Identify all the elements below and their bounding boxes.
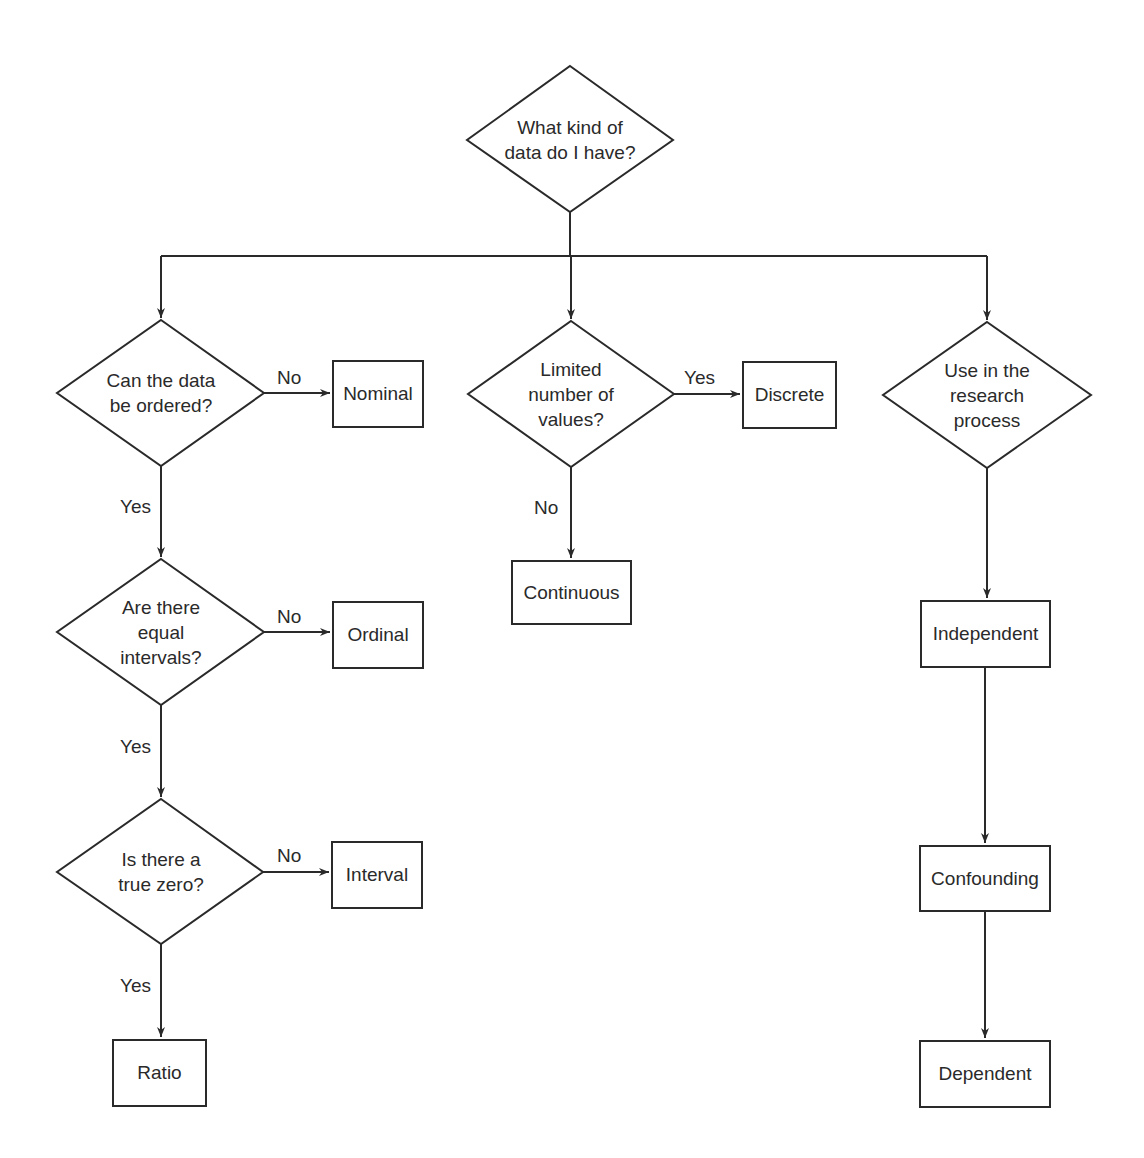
ordered-question: Can the data be ordered? bbox=[71, 353, 251, 433]
flowchart-canvas: What kind of data do I have? Can the dat… bbox=[0, 0, 1144, 1158]
independent-box: Independent bbox=[920, 600, 1051, 668]
limited-yes-label: Yes bbox=[684, 367, 715, 389]
limited-no-label: No bbox=[534, 497, 558, 519]
ordered-no-label: No bbox=[277, 367, 301, 389]
ordinal-box: Ordinal bbox=[332, 601, 424, 669]
dependent-box: Dependent bbox=[919, 1040, 1051, 1108]
equal-no-label: No bbox=[277, 606, 301, 628]
equal-intervals-question: Are there equal intervals? bbox=[71, 592, 251, 672]
discrete-box: Discrete bbox=[742, 361, 837, 429]
ordered-yes-label: Yes bbox=[120, 496, 151, 518]
research-use-question: Use in the research process bbox=[897, 355, 1077, 435]
interval-box: Interval bbox=[331, 841, 423, 909]
ratio-box: Ratio bbox=[112, 1039, 207, 1107]
continuous-box: Continuous bbox=[511, 560, 632, 625]
true-zero-question: Is there a true zero? bbox=[71, 832, 251, 912]
equal-yes-label: Yes bbox=[120, 736, 151, 758]
zero-yes-label: Yes bbox=[120, 975, 151, 997]
root-question: What kind of data do I have? bbox=[480, 100, 660, 180]
zero-no-label: No bbox=[277, 845, 301, 867]
confounding-box: Confounding bbox=[919, 845, 1051, 912]
limited-values-question: Limited number of values? bbox=[481, 354, 661, 434]
nominal-box: Nominal bbox=[332, 360, 424, 428]
